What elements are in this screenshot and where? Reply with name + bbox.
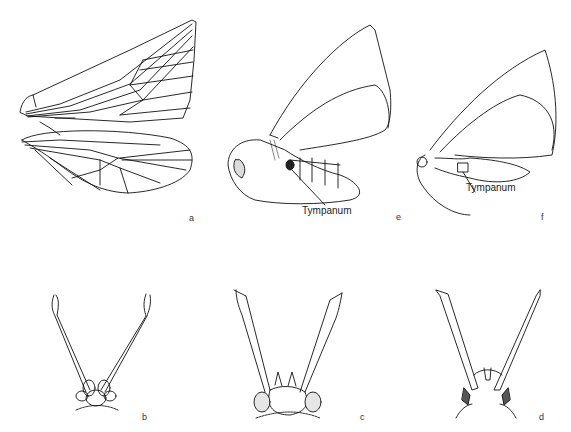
panel-label-f: f [541,212,544,222]
panel-label-e: e [396,212,401,222]
figure-canvas [0,0,571,432]
panel-c-head [234,290,342,418]
tympanum-annotation-f: Tympanum [466,182,515,193]
panel-label-b: b [142,412,147,422]
tympanum-annotation-e: Tympanum [302,205,351,216]
panel-e-moth [228,25,391,205]
panel-b-head [52,294,151,410]
panel-label-a: a [189,213,194,223]
panel-a-wings [20,20,196,193]
panel-d-head [436,290,540,418]
panel-label-d: d [539,412,544,422]
panel-label-c: c [360,412,365,422]
